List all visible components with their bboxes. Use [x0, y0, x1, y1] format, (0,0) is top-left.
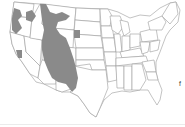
edge-glyph: f — [179, 80, 181, 87]
us-range-map — [0, 0, 185, 127]
state-outlines — [10, 2, 180, 117]
bottom-divider — [0, 124, 185, 125]
